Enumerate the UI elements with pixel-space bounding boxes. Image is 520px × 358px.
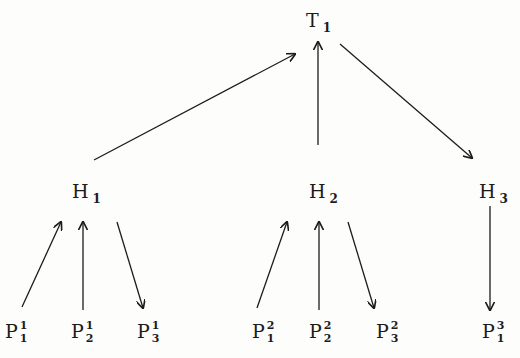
node-t1-sub: 1: [323, 21, 331, 35]
node-h1: H1: [72, 182, 101, 201]
edge-p21-h2: [257, 222, 287, 308]
edges-layer: [0, 0, 520, 358]
edge-h2-p23: [348, 222, 374, 308]
edge-p11-h1: [22, 222, 61, 307]
node-p23-sup: 2: [391, 319, 399, 332]
node-p23-base: P: [376, 320, 389, 342]
edge-t1-h3: [340, 44, 472, 158]
node-p22-base: P: [309, 320, 322, 342]
node-p21-base: P: [252, 320, 265, 342]
node-p13-base: P: [137, 320, 150, 342]
node-h3-base: H: [479, 180, 496, 202]
node-p12-sub: 2: [86, 332, 94, 345]
node-h3-sub: 3: [500, 192, 508, 206]
edge-h1-p13: [117, 222, 143, 308]
node-p22-sub: 2: [324, 332, 332, 345]
node-p22: P22: [309, 322, 331, 345]
node-h2: H2: [309, 182, 338, 201]
node-p23: P23: [376, 322, 398, 345]
node-p11-sub: 1: [20, 332, 28, 345]
node-p11: P11: [5, 322, 27, 345]
node-p12-sup: 1: [86, 319, 94, 332]
node-p21-sub: 1: [267, 332, 275, 345]
node-p31-sup: 3: [497, 319, 505, 332]
node-t1: T1: [306, 11, 331, 30]
node-p31-base: P: [482, 320, 495, 342]
node-p21-sup: 2: [267, 319, 275, 332]
node-p31: P31: [482, 322, 504, 345]
node-h1-sub: 1: [93, 192, 101, 206]
node-p13-sup: 1: [152, 319, 160, 332]
node-t1-base: T: [306, 9, 319, 31]
edge-h1-t1: [94, 54, 295, 160]
node-p13-sub: 3: [152, 332, 160, 345]
node-p22-sup: 2: [324, 319, 332, 332]
node-p12-base: P: [71, 320, 84, 342]
node-h2-base: H: [309, 180, 326, 202]
node-p11-base: P: [5, 320, 18, 342]
node-h3: H3: [479, 182, 508, 201]
node-h1-base: H: [72, 180, 89, 202]
node-p23-sub: 3: [391, 332, 399, 345]
node-p13: P13: [137, 322, 159, 345]
node-p12: P12: [71, 322, 93, 345]
node-h2-sub: 2: [330, 192, 338, 206]
node-p31-sub: 1: [497, 332, 505, 345]
node-p21: P21: [252, 322, 274, 345]
node-p11-sup: 1: [20, 319, 28, 332]
